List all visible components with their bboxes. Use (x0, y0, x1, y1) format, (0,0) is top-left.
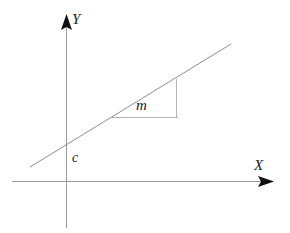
y-axis-label: Y (72, 12, 80, 27)
intercept-label: c (72, 151, 78, 165)
x-axis-label: X (254, 158, 263, 173)
linear-function-graph: Y X m c (0, 0, 290, 233)
graph-canvas (0, 0, 290, 233)
slope-label: m (136, 98, 147, 113)
y-axis (61, 14, 72, 228)
x-axis (12, 176, 274, 187)
plot-line (30, 44, 231, 167)
